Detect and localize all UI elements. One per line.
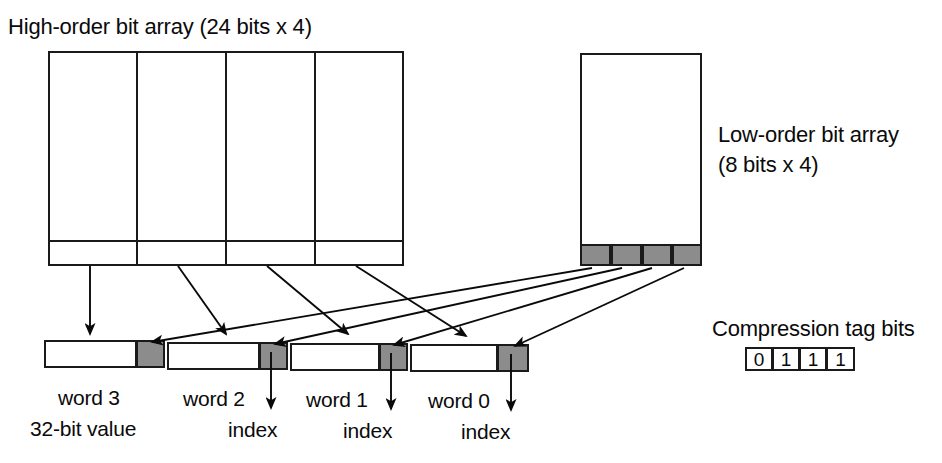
tag-bit-3: 1 — [826, 347, 855, 371]
low-order-array-title-line2: (8 bits x 4) — [718, 152, 818, 177]
word-3-index-cell — [136, 340, 165, 368]
word-2-label: word 2 — [183, 386, 245, 411]
tag-bit-2: 1 — [799, 347, 827, 371]
arrow-low-order-1-to-word2-index — [275, 268, 622, 344]
low-order-bit-array — [580, 53, 702, 266]
arrow-high-order-1-to-word2 — [178, 266, 226, 334]
high-order-column-divider-2 — [225, 51, 227, 266]
low-order-array-title-line1: Low-order bit array — [718, 122, 899, 147]
word-0-index-cell — [497, 344, 529, 372]
low-order-cell-1 — [611, 244, 642, 266]
word-0-label: word 0 — [428, 388, 490, 413]
word-3-label: word 3 — [58, 385, 120, 410]
word-0-index-label: index — [461, 419, 510, 444]
word-1-index-label: index — [343, 418, 392, 443]
word-3-value-cell — [44, 340, 137, 368]
low-order-cell-0 — [580, 244, 611, 266]
diagram-canvas: High-order bit array (24 bits x 4) Low-o… — [0, 0, 942, 463]
high-order-column-divider-1 — [136, 51, 138, 266]
value-caption: 32-bit value — [30, 416, 136, 441]
arrow-high-order-3-to-word0 — [356, 266, 466, 336]
word-0-value-cell — [410, 344, 498, 372]
arrow-low-order-0-to-word3-index — [152, 268, 592, 342]
tag-bit-1: 1 — [772, 347, 800, 371]
arrow-low-order-2-to-word1-index — [394, 268, 652, 345]
high-order-array-title: High-order bit array (24 bits x 4) — [8, 14, 312, 39]
word-2-index-label: index — [228, 417, 277, 442]
tag-bit-0: 0 — [745, 347, 773, 371]
word-2-value-cell — [167, 342, 260, 370]
word-1-value-cell — [290, 343, 380, 371]
word-1-index-cell — [379, 343, 408, 371]
high-order-column-divider-3 — [314, 51, 316, 266]
high-order-bottom-row-divider — [48, 240, 404, 242]
arrow-high-order-2-to-word1 — [267, 266, 348, 334]
word-1-label: word 1 — [306, 387, 368, 412]
word-2-index-cell — [259, 342, 288, 370]
compression-tag-bits-title: Compression tag bits — [712, 316, 915, 341]
low-order-cell-2 — [642, 244, 672, 266]
low-order-cell-3 — [672, 244, 702, 266]
arrow-low-order-3-to-word0-index — [515, 268, 684, 346]
